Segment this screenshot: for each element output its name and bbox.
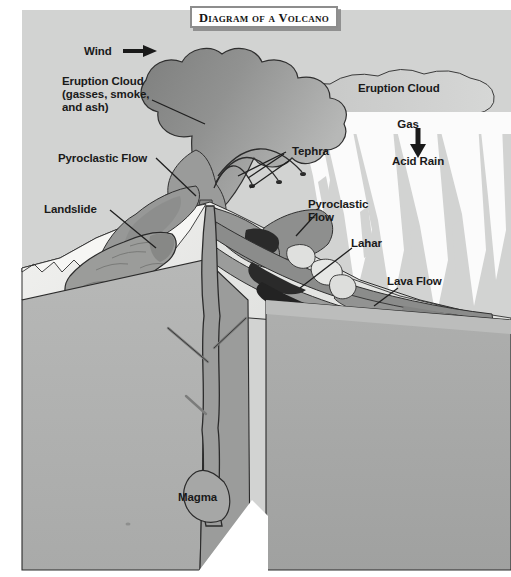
- label-wind: Wind: [84, 45, 112, 58]
- label-lava-flow: Lava Flow: [387, 275, 442, 288]
- label-pyroclastic-r: Pyroclastic Flow: [308, 198, 368, 224]
- label-tephra: Tephra: [292, 145, 329, 158]
- label-lahar: Lahar: [351, 237, 382, 250]
- label-eruption-cloud-r: Eruption Cloud: [358, 82, 440, 95]
- label-magma: Magma: [178, 491, 217, 504]
- label-pyroclastic-l: Pyroclastic Flow: [58, 152, 147, 165]
- title-box: Diagram of a Volcano: [190, 6, 338, 28]
- label-gas: Gas: [397, 118, 418, 131]
- page-title: Diagram of a Volcano: [192, 11, 336, 26]
- volcano-diagram-page: Diagram of a Volcano WindEruption Cloud …: [0, 0, 511, 577]
- label-eruption-cloud-l: Eruption Cloud (gasses, smoke, and ash): [62, 75, 149, 114]
- label-acid-rain: Acid Rain: [392, 155, 444, 168]
- label-landslide: Landslide: [44, 203, 97, 216]
